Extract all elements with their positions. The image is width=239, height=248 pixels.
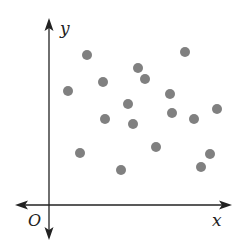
data-point — [82, 50, 92, 60]
data-point — [151, 142, 161, 152]
origin-label: O — [28, 211, 41, 230]
data-point — [140, 74, 150, 84]
y-axis-label: y — [59, 18, 70, 38]
data-point — [212, 104, 222, 114]
data-point — [180, 47, 190, 57]
axes — [15, 18, 232, 240]
x-axis-label: x — [212, 210, 222, 230]
data-point — [205, 149, 215, 159]
data-point — [196, 162, 206, 172]
data-points — [63, 47, 222, 175]
data-point — [165, 89, 175, 99]
data-point — [167, 108, 177, 118]
plot-svg: y x O — [0, 0, 239, 248]
data-point — [75, 148, 85, 158]
scatter-plot: y x O — [0, 0, 239, 248]
data-point — [133, 63, 143, 73]
data-point — [63, 86, 73, 96]
data-point — [98, 77, 108, 87]
data-point — [123, 99, 133, 109]
data-point — [100, 114, 110, 124]
data-point — [189, 114, 199, 124]
data-point — [116, 165, 126, 175]
data-point — [128, 119, 138, 129]
